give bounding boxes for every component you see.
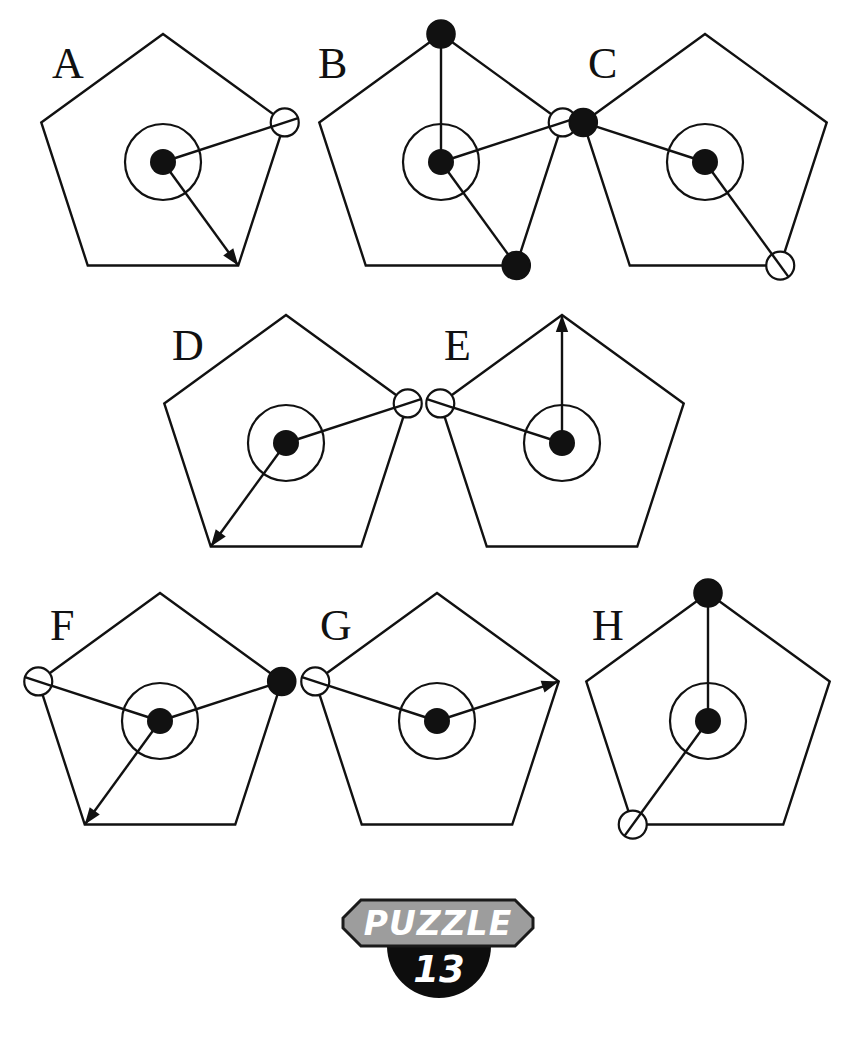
vertex-marker-filled-top [694,579,722,607]
center-hub-dot [150,149,176,175]
panel-label-f: F [50,601,74,650]
center-hub-dot [692,149,718,175]
panel-label-e: E [444,321,471,370]
center-hub-dot [147,708,173,734]
panel-label-g: G [320,601,352,650]
center-hub-dot [428,149,454,175]
panel-label-d: D [172,321,204,370]
vertex-marker-filled-upper-right [268,667,296,695]
badge-word-label: PUZZLE [364,904,512,943]
badge-number-label: 13 [413,948,465,991]
vertex-marker-filled-upper-left [569,108,597,136]
panel-label-b: B [318,39,347,88]
center-hub-dot [273,430,299,456]
center-hub-dot [549,430,575,456]
vertex-marker-filled-top [427,20,455,48]
puzzle-sheet: ABCDEFGH PUZZLE 13 [0,0,850,1043]
vertex-marker-filled-lower-right [502,252,530,280]
panel-label-h: H [592,601,624,650]
center-hub-dot [695,708,721,734]
panel-label-a: A [52,39,84,88]
center-hub-dot [424,708,450,734]
panel-label-c: C [588,39,617,88]
